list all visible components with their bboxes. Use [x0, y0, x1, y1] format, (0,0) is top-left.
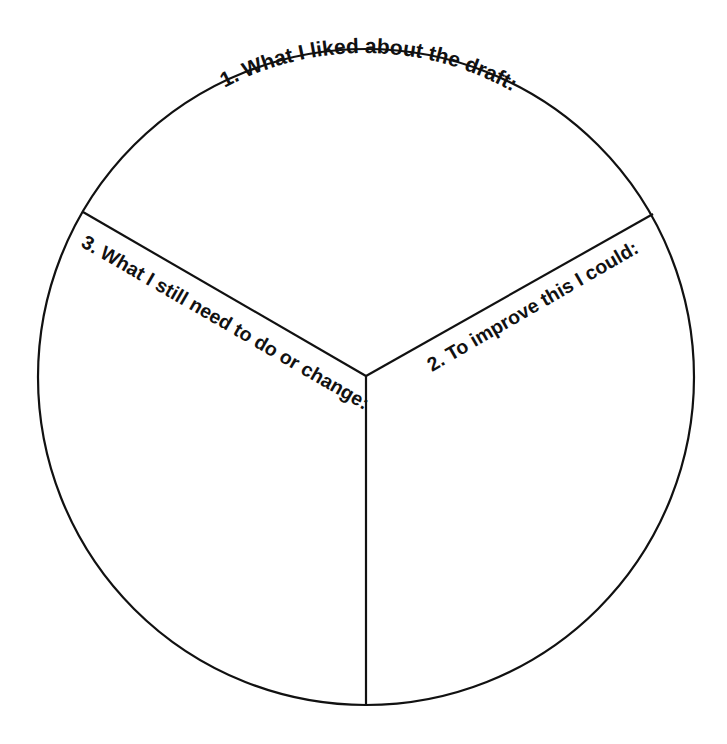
reflection-circle-worksheet: 1. What I liked about the draft: 3. What… [0, 0, 727, 744]
